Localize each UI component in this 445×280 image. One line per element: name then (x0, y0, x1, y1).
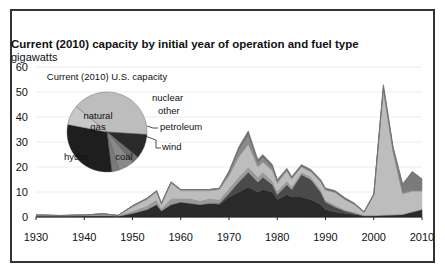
pie-label-other: other (158, 105, 180, 116)
x-tick-label: 2000 (362, 231, 386, 243)
y-tick-label: 40 (16, 111, 28, 123)
area-chart: 193019401950196019701980199020002010 010… (0, 0, 445, 280)
x-axis-ticks: 193019401950196019701980199020002010 (24, 217, 434, 243)
y-tick-label: 0 (22, 211, 28, 223)
x-tick-label: 1940 (72, 231, 96, 243)
pie-title: Current (2010) U.S. capacity (47, 71, 168, 82)
y-tick-label: 10 (16, 186, 28, 198)
pie-label-natural-gas: natural (83, 110, 112, 121)
y-tick-label: 50 (16, 86, 28, 98)
y-tick-label: 20 (16, 161, 28, 173)
x-tick-label: 1990 (313, 231, 337, 243)
y-axis-ticks: 0102030405060 (16, 61, 28, 223)
pie-label-petroleum: petroleum (160, 121, 202, 132)
pie-label-natural-gas: gas (90, 121, 106, 132)
pie-label-coal: coal (115, 151, 132, 162)
x-tick-label: 2010 (410, 231, 434, 243)
x-tick-label: 1960 (169, 231, 193, 243)
pie-label-wind: wind (161, 141, 182, 152)
pie-chart-inset: Current (2010) U.S. capacitynaturalgasnu… (47, 71, 203, 172)
x-tick-label: 1930 (24, 231, 48, 243)
pie-leader-petroleum (147, 126, 158, 128)
y-tick-label: 30 (16, 136, 28, 148)
y-tick-label: 60 (16, 61, 28, 73)
x-tick-label: 1950 (120, 231, 144, 243)
x-tick-label: 1980 (265, 231, 289, 243)
x-tick-label: 1970 (217, 231, 241, 243)
pie-label-hydro: hydro (64, 151, 88, 162)
pie-label-nuclear: nuclear (152, 92, 183, 103)
